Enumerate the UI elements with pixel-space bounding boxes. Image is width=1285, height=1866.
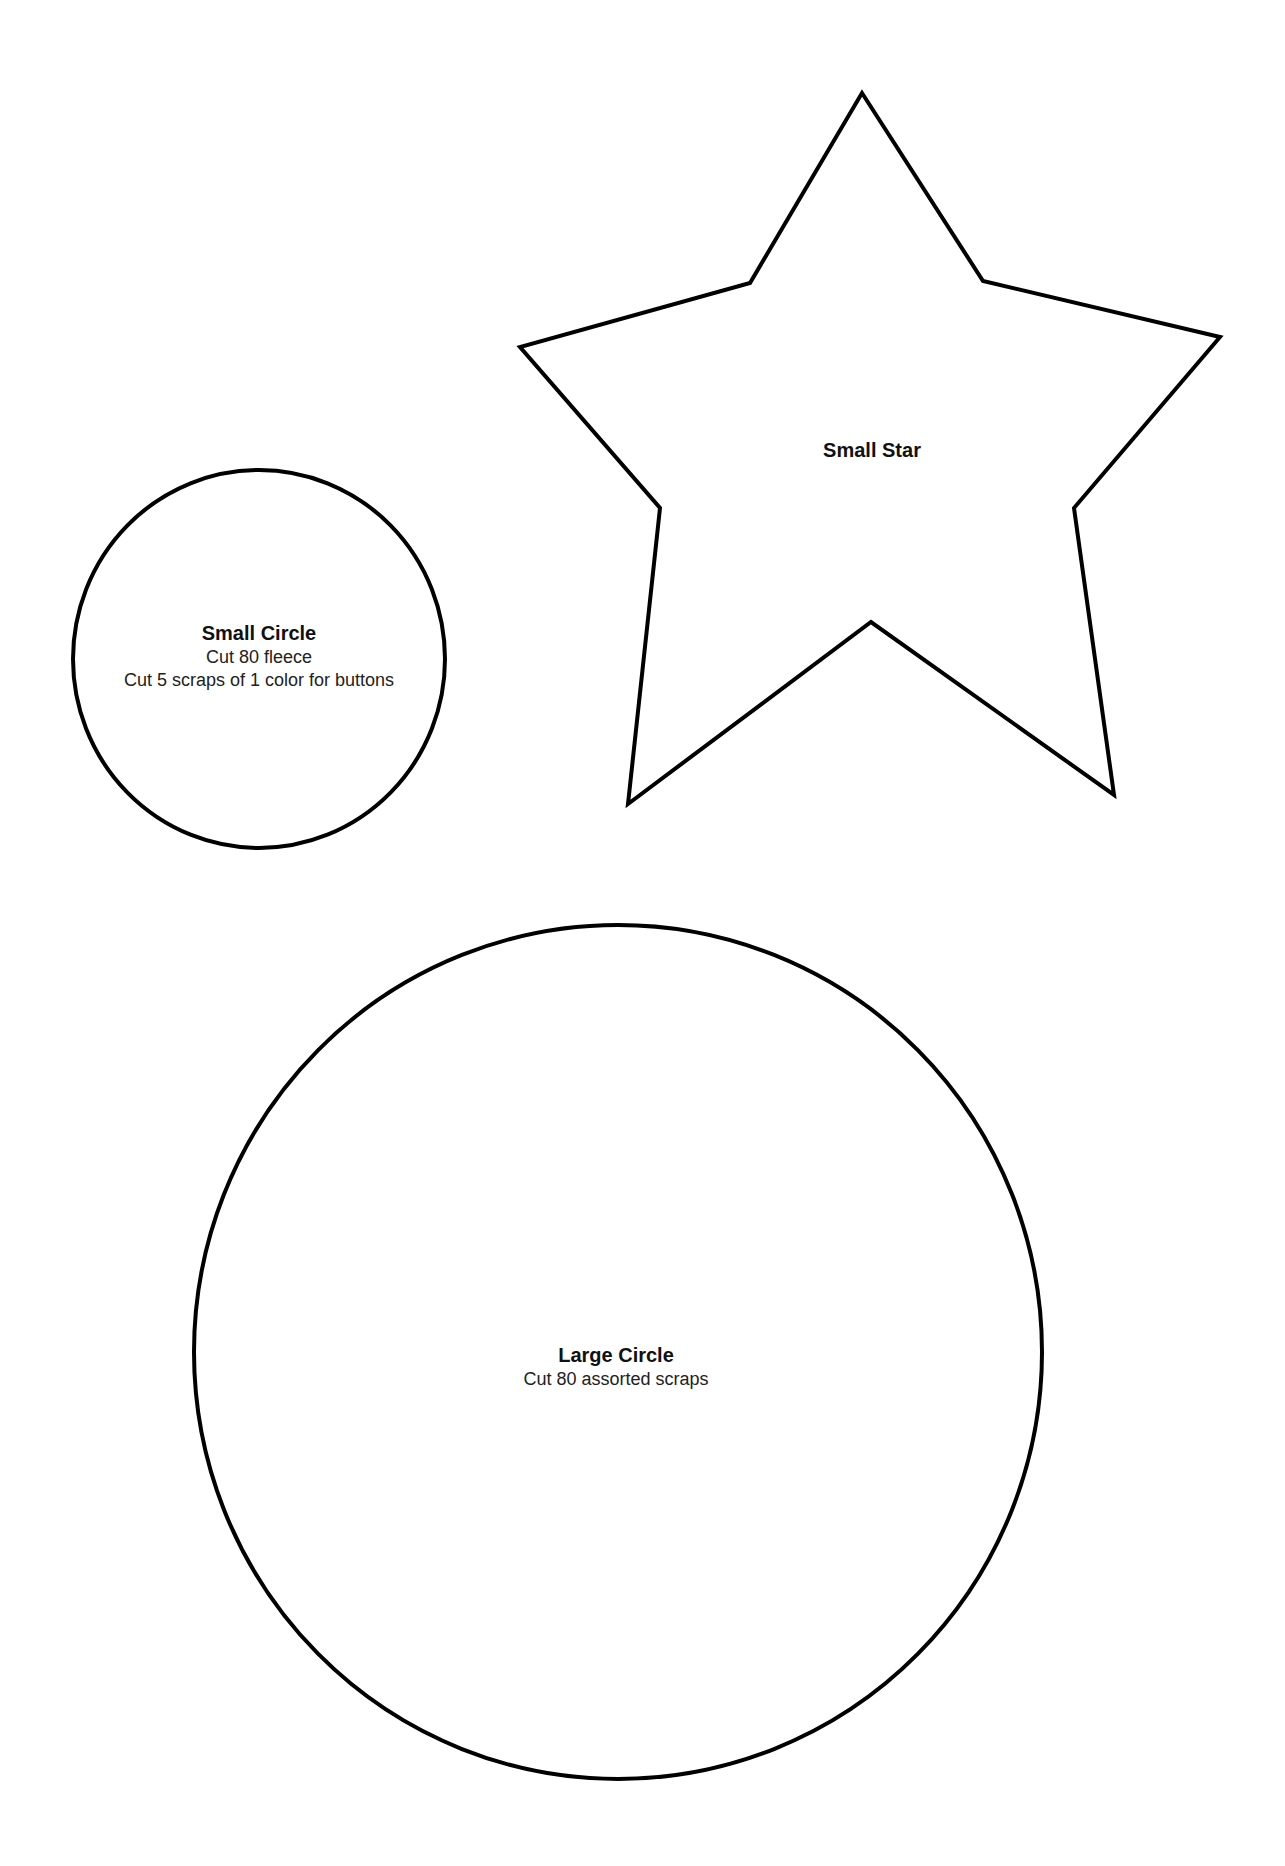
small-circle-line-2: Cut 5 scraps of 1 color for buttons xyxy=(124,669,394,692)
small-circle-title: Small Circle xyxy=(124,620,394,646)
small-star-label: Small Star xyxy=(823,437,921,463)
pattern-shapes xyxy=(0,0,1285,1866)
large-circle-line-1: Cut 80 assorted scraps xyxy=(523,1368,708,1391)
small-circle-line-1: Cut 80 fleece xyxy=(124,646,394,669)
small-star-title: Small Star xyxy=(823,437,921,463)
large-circle-label: Large Circle Cut 80 assorted scraps xyxy=(523,1342,708,1391)
small-circle-label: Small Circle Cut 80 fleece Cut 5 scraps … xyxy=(124,620,394,693)
large-circle-title: Large Circle xyxy=(523,1342,708,1368)
